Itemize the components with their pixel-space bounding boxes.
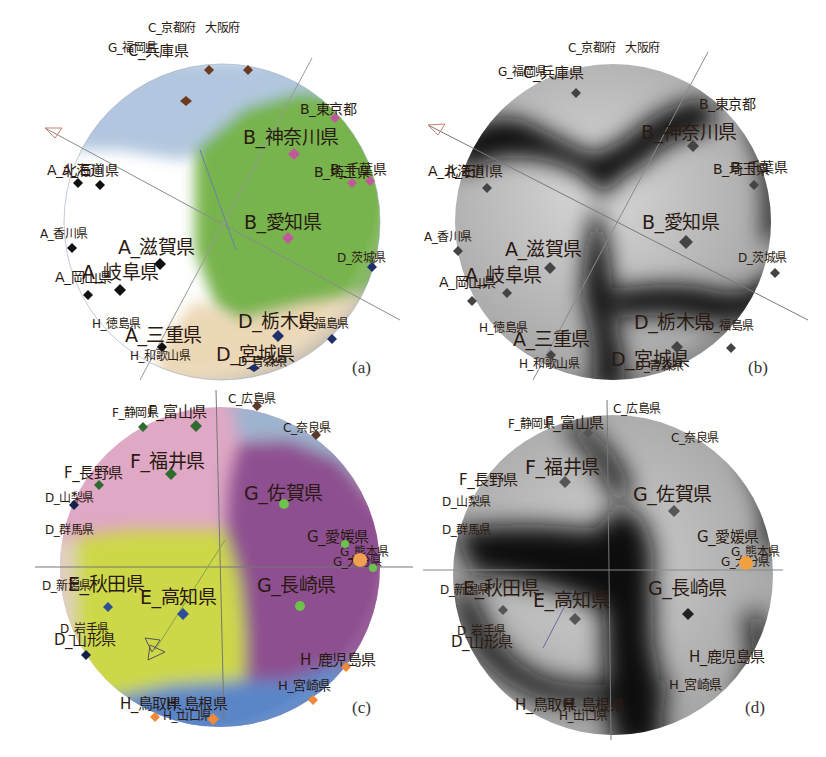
label-ehime: G_愛媛県 [697,530,759,545]
panel-c: C_広島県 F_静岡県 F_富山県 C_奈良県 F_福井県 F_長野県 G_佐賀… [0,380,413,757]
label-mie: A_三重県 [513,330,590,349]
label-akita: E_秋田県 [68,575,144,594]
label-wakayama: H_和歌山県 [130,350,190,362]
label-hyogo: C_兵庫県 [523,66,583,81]
label-gunma: D_群馬県 [45,524,94,536]
label-oita: G_大分県 [333,556,382,568]
label-ibaraki: D_茨城県 [337,252,386,264]
panel-a: C_京都府 大阪府 G_福岡県 C_兵庫県 B_東京都 B_神奈川県 A_北海道… [0,0,413,380]
label-kagoshima: H_鹿児島県 [300,653,376,668]
label-fukushima: D_福島県 [300,318,349,330]
label-toyama: F_富山県 [545,416,604,431]
panel-d: C_広島県 F_静岡県 F_富山県 C_奈良県 F_福井県 F_長野県 G_佐賀… [413,380,826,757]
label-nagasaki: G_長崎県 [257,576,336,595]
label-aomori: D_青森県 [635,360,684,372]
label-kagoshima: H_鹿児島県 [689,650,765,665]
label-yamaguchi: H_山口県 [559,710,608,722]
label-yamanashi: D_山梨県 [442,496,491,508]
label-kochi: E_高知県 [533,591,609,610]
label-hiroshima: C_広島県 [228,393,276,405]
label-oita: G_大分県 [721,556,770,568]
label-hiroshima: C_広島県 [613,403,661,415]
label-wakayama: H_和歌山県 [519,358,579,370]
label-shiga: A_滋賀県 [505,240,582,259]
label-tochigi: D_栃木県 [634,313,713,332]
label-fukushima: D_福島県 [705,320,754,332]
label-akita: E_秋田県 [463,579,539,598]
label-toyama: F_富山県 [148,405,207,420]
label-nagasaki: G_長崎県 [648,579,727,598]
label-ishikawa: A_石川県 [62,163,118,177]
label-chiba: B_千葉県 [330,162,386,176]
label-nara: C_奈良県 [283,422,331,434]
label-gunma: D_群馬県 [442,524,491,536]
label-yamagata: D_山形県 [451,635,513,650]
label-nagano: F_長野県 [459,473,518,488]
label-ibaraki: D_茨城県 [738,252,787,264]
label-saga: G_佐賀県 [244,484,323,503]
label-fukui: F_福井県 [130,452,205,471]
label-yamanashi: D_山梨県 [45,492,94,504]
label-kagawa: A_香川県 [40,228,88,240]
label-tokyo: B_東京都 [300,102,356,116]
label-osaka: 大阪府 [205,22,240,34]
sphere-a [0,0,413,380]
panel-tag-d: (d) [745,698,765,718]
label-fukui: F_福井県 [525,458,600,477]
sphere-b [413,0,826,380]
panel-tag-c: (c) [352,698,371,718]
label-chiba: B_千葉県 [731,160,787,174]
label-kyoto: C_京都府 [148,22,196,34]
label-saga: G_佐賀県 [633,485,712,504]
panel-tag-a: (a) [352,358,371,378]
label-mie: A_三重県 [125,326,202,345]
label-hyogo: C_兵庫県 [128,44,188,59]
label-yamaguchi: H_山口県 [163,710,212,722]
label-ishikawa: A_石川県 [446,164,502,178]
label-gifu: A_岐阜県 [82,263,159,282]
label-gifu: A_岐阜県 [465,266,542,285]
label-shiga: A_滋賀県 [118,238,195,257]
label-aichi: B_愛知県 [244,213,321,232]
panel-tag-b: (b) [748,358,768,378]
label-ehime: G_愛媛県 [307,530,369,545]
label-kagawa: A_香川県 [424,231,472,243]
label-kanagawa: B_神奈川県 [641,123,737,142]
label-osaka: 大阪府 [625,42,660,54]
label-kyoto: C_京都府 [568,42,616,54]
label-aomori: D_青森県 [238,356,287,368]
label-kochi: E_高知県 [140,588,216,607]
label-nara: C_奈良県 [671,432,719,444]
label-kanagawa: B_神奈川県 [243,128,339,147]
label-aichi: B_愛知県 [642,213,719,232]
label-miyazaki: H_宮崎県 [669,678,722,691]
label-tokyo: B_東京都 [699,97,755,111]
label-nagano: F_長野県 [64,466,123,481]
label-miyazaki: H_宮崎県 [278,679,331,692]
panel-b: C_京都府 大阪府 G_福岡県 C_兵庫県 B_東京都 B_神奈川県 A_北海道… [413,0,826,380]
label-yamagata: D_山形県 [54,633,116,648]
